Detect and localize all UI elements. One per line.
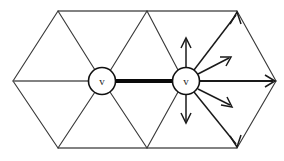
arrow-down-right-long-head [230, 135, 241, 147]
arrow-up-right-short [198, 57, 231, 74]
mesh-canvas: v v [0, 0, 284, 161]
outline-edge-top-left [13, 11, 58, 81]
arrow-down-right-long [194, 92, 241, 147]
outline-edge-bottom-right [237, 81, 276, 148]
interior-edge-left-up-left [58, 11, 95, 70]
arrow-down [181, 95, 191, 123]
arrow-up-right-short-shaft [198, 58, 229, 74]
outline-edge-top-right [237, 11, 276, 81]
arrow-up-right-long [194, 12, 241, 70]
arrow-up [181, 38, 191, 67]
vertex-right-label: v [183, 75, 189, 87]
interior-edge-right-up-left [147, 11, 178, 70]
mesh-diagram: v v [0, 0, 284, 161]
vertex-left-label: v [99, 75, 105, 87]
interior-edge-left-up-right [110, 11, 147, 71]
interior-edge-right-down-left [147, 92, 178, 148]
interior-edge-left-down-left [58, 92, 95, 148]
interior-edge-left-down-right [110, 92, 147, 148]
outline-edge-bottom-left [13, 81, 58, 148]
vertex-left: v [89, 68, 116, 95]
arrow-right [199, 75, 275, 87]
arrow-up-right-long-head [230, 12, 241, 24]
vertex-right: v [173, 68, 200, 95]
